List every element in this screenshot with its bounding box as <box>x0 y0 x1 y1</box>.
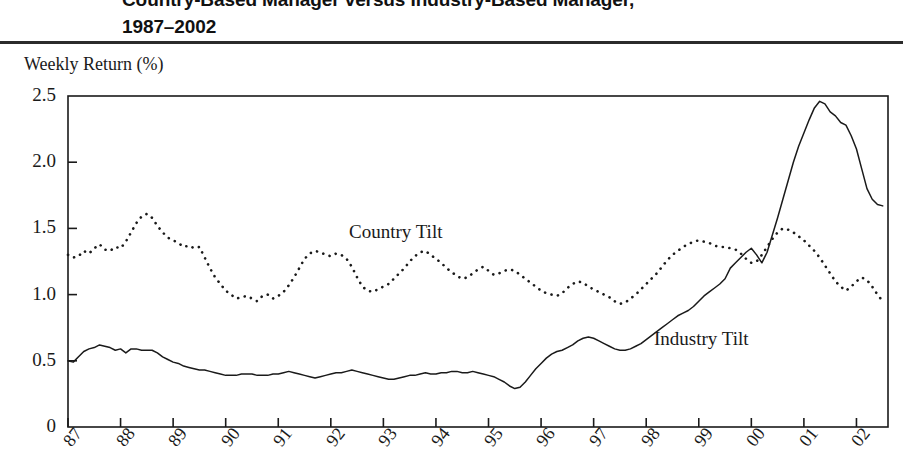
axes-layer <box>68 96 888 427</box>
y-tick-label: 2.0 <box>6 150 56 172</box>
series-path-industry <box>68 101 883 388</box>
y-tick-label: 0.5 <box>6 349 56 371</box>
chart-page: Country-Based Manager versus Industry-Ba… <box>0 0 903 462</box>
y-tick-label: 2.5 <box>6 84 56 106</box>
y-tick-label: 1.0 <box>6 283 56 305</box>
plot-area: 2.52.01.51.00.50 87888990919293949596979… <box>0 0 903 462</box>
chart-canvas <box>0 0 903 462</box>
series-label-country: Country Tilt <box>349 221 442 243</box>
series-label-industry: Industry Tilt <box>654 328 749 350</box>
series-path-country <box>68 214 883 304</box>
y-tick-label: 0 <box>6 415 56 437</box>
series-layer <box>68 101 883 388</box>
y-tick-label: 1.5 <box>6 216 56 238</box>
